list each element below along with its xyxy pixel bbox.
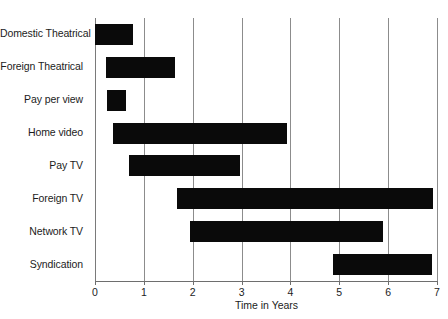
category-label: Pay TV — [0, 160, 88, 171]
bar — [106, 57, 175, 78]
x-tick-label: 6 — [373, 286, 403, 298]
x-axis-line — [95, 281, 438, 282]
category-label: Domestic Theatrical — [0, 28, 88, 39]
bar — [95, 24, 133, 45]
gridline-x-6 — [388, 18, 389, 281]
category-label: Syndication — [0, 259, 88, 270]
x-tick-mark — [437, 281, 438, 285]
gridline-x-0 — [95, 18, 96, 281]
bar — [177, 188, 433, 209]
x-tick-label: 0 — [80, 286, 110, 298]
bar — [113, 123, 287, 144]
category-label: Foreign TV — [0, 193, 88, 204]
x-tick-mark — [95, 281, 96, 285]
bar — [333, 254, 432, 275]
category-label: Network TV — [0, 226, 88, 237]
x-tick-mark — [339, 281, 340, 285]
x-tick-mark — [242, 281, 243, 285]
gridline-x-7 — [437, 18, 438, 281]
x-tick-label: 3 — [227, 286, 257, 298]
x-axis-title: Time in Years — [95, 299, 438, 311]
x-tick-label: 2 — [178, 286, 208, 298]
bar — [107, 90, 126, 111]
category-label: Pay per view — [0, 94, 88, 105]
category-label: Home video — [0, 127, 88, 138]
x-tick-mark — [193, 281, 194, 285]
x-tick-label: 5 — [324, 286, 354, 298]
bar-chart: Domestic TheatricalForeign TheatricalPay… — [0, 0, 448, 319]
x-tick-label: 7 — [422, 286, 448, 298]
bar — [190, 221, 383, 242]
x-tick-label: 4 — [275, 286, 305, 298]
category-axis-labels: Domestic TheatricalForeign TheatricalPay… — [0, 18, 88, 281]
bar — [129, 155, 240, 176]
category-label: Foreign Theatrical — [0, 61, 88, 72]
x-tick-mark — [388, 281, 389, 285]
x-tick-mark — [290, 281, 291, 285]
plot-area — [95, 18, 437, 281]
x-tick-label: 1 — [129, 286, 159, 298]
x-tick-mark — [144, 281, 145, 285]
